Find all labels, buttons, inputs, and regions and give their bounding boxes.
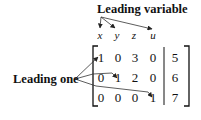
- leading-one-arrows: [75, 57, 152, 97]
- matrix-cell: 2: [132, 71, 139, 84]
- leading-variable-arrows: [100, 17, 152, 29]
- matrix-cell: 3: [132, 51, 139, 64]
- matrix-cell: 0: [132, 91, 139, 104]
- matrix-cell: 1: [115, 71, 122, 84]
- leading-one-label: Leading one: [13, 73, 79, 86]
- matrix-constant: 7: [172, 91, 179, 104]
- matrix-cell: 0: [98, 71, 105, 84]
- matrix-cell: 1: [98, 51, 105, 64]
- matrix-cell: 0: [150, 51, 157, 64]
- matrix-cell: 0: [98, 91, 105, 104]
- matrix-cell: 0: [115, 51, 122, 64]
- matrix-constant: 6: [172, 71, 179, 84]
- leading-variable-label: Leading variable: [97, 3, 188, 16]
- matrix-cell: 1: [150, 91, 157, 104]
- variable-y: y: [115, 30, 120, 41]
- variable-x: x: [98, 30, 103, 41]
- matrix-constant: 5: [172, 51, 179, 64]
- variable-u: u: [150, 30, 156, 41]
- variable-z: z: [132, 30, 136, 41]
- matrix-cell: 0: [150, 71, 157, 84]
- matrix-cell: 0: [115, 91, 122, 104]
